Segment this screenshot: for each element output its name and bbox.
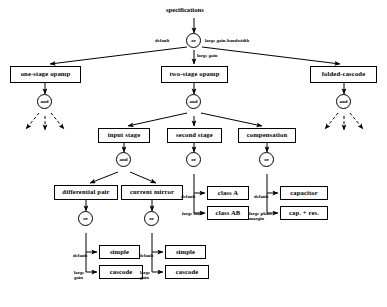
edge-label-second-stage-large-load: large load (182, 211, 208, 216)
edge-one-stage-leaf-left (26, 113, 39, 129)
node-differential-pair-simple[interactable]: simple (99, 245, 140, 259)
edge-and-to-current-mirror (130, 172, 156, 183)
root-label-specifications: specifications (166, 6, 204, 13)
edge-or-to-folded-cascode (202, 47, 340, 64)
node-second-stage[interactable]: second stage (167, 128, 222, 143)
edge-folded-leaf-right (350, 113, 363, 129)
edge-label-differential-pair-default: default (73, 253, 87, 258)
node-compensation[interactable]: compensation (238, 128, 296, 143)
node-one-stage-opamp[interactable]: one-stage opamp (10, 66, 81, 83)
or-node-current-mirror[interactable]: or (144, 211, 159, 226)
edge-label-root-large-gain-bandwidth: large gain-bandwidth (205, 38, 249, 43)
edge-or-to-one-stage (50, 47, 187, 64)
and-node-folded-cascode[interactable]: and (336, 94, 351, 109)
node-two-stage-opamp[interactable]: two-stage opamp (161, 66, 228, 83)
or-node-second-stage[interactable]: or (186, 152, 201, 167)
edge-or-to-diff-cascode (86, 252, 97, 272)
edge-label-current-mirror-large-gain: large gain (140, 270, 158, 281)
node-differential-pair-cascode[interactable]: cascode (99, 265, 143, 279)
or-node-differential-pair[interactable]: or (78, 211, 93, 226)
diagram-canvas: specifications or and and and and or or … (0, 0, 387, 307)
edge-or-to-class-a (194, 174, 205, 193)
node-differential-pair[interactable]: differential pair (54, 185, 118, 200)
edge-or-to-diff-simple (86, 233, 97, 252)
edge-label-root-large-gain: large gain (197, 53, 217, 58)
edge-or-to-mirror-cascode (152, 252, 163, 272)
edge-and-to-input-stage (128, 113, 187, 126)
node-input-stage[interactable]: input stage (98, 128, 150, 143)
node-folded-cascode[interactable]: folded-cascode (310, 66, 377, 83)
or-node-root[interactable]: or (186, 33, 201, 48)
edge-label-compensation-default: default (254, 194, 268, 199)
edge-label-second-stage-default: default (181, 194, 195, 199)
edge-folded-leaf-left (325, 113, 338, 129)
edge-label-root-default: default (155, 38, 169, 43)
edge-or-to-class-ab (194, 193, 205, 213)
edge-and-to-compensation (201, 113, 262, 126)
node-class-ab[interactable]: class AB (207, 206, 249, 220)
edge-or-to-cap-plus-res (267, 193, 278, 213)
node-cap-plus-res[interactable]: cap. + res. (280, 206, 328, 220)
edge-label-compensation-large-phase-margin: large phase margin (249, 211, 283, 222)
node-class-a[interactable]: class A (207, 186, 249, 200)
and-node-two-stage[interactable]: and (186, 94, 201, 109)
edge-or-to-capacitor (267, 174, 278, 193)
edge-one-stage-leaf-right (51, 113, 64, 129)
or-node-compensation[interactable]: or (259, 152, 274, 167)
edge-label-differential-pair-large-gain: large gain (74, 270, 92, 281)
and-node-one-stage[interactable]: and (37, 94, 52, 109)
node-capacitor[interactable]: capacitor (280, 186, 328, 200)
node-current-mirror-simple[interactable]: simple (165, 245, 206, 259)
node-current-mirror-cascode[interactable]: cascode (165, 265, 209, 279)
edge-label-current-mirror-default: default (139, 253, 153, 258)
node-current-mirror[interactable]: current mirror (121, 185, 183, 200)
edge-or-to-mirror-simple (152, 233, 163, 252)
and-node-input-stage[interactable]: and (116, 152, 131, 167)
edge-and-to-differential-pair (90, 172, 118, 183)
